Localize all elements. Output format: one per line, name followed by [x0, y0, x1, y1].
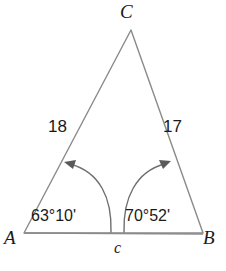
angle-measure-label-b: 70°52': [125, 208, 170, 224]
angle-a-arc: [70, 164, 111, 232]
vertex-label-c: C: [120, 2, 133, 21]
triangle-base-ab: [24, 233, 203, 234]
side-length-label-ab: c: [114, 240, 121, 256]
triangle-figure: C A B 18 17 c 63°10' 70°52': [0, 0, 226, 271]
side-length-label-bc: 17: [163, 118, 182, 135]
vertex-label-b: B: [203, 228, 215, 247]
angle-a-arrowhead-icon: [64, 160, 76, 169]
side-length-label-ac: 18: [48, 118, 67, 135]
angle-measure-label-a: 63°10': [31, 208, 76, 224]
triangle-drawing: [0, 0, 226, 271]
vertex-label-a: A: [4, 228, 16, 247]
